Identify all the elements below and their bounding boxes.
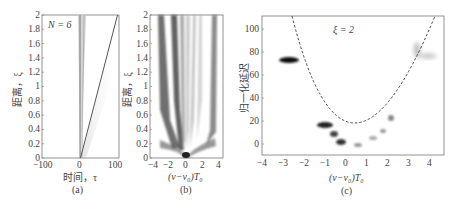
- ytick: 20: [250, 116, 260, 126]
- ytick: 60: [250, 70, 260, 80]
- xtick: 0: [183, 160, 188, 170]
- ytick: 1: [143, 81, 148, 91]
- ytick: 1.8: [136, 24, 148, 34]
- xtick: 4: [216, 160, 221, 170]
- ytick: 1.2: [136, 67, 148, 77]
- panel-c-caption: (c): [341, 185, 352, 196]
- xtick: −4: [148, 160, 158, 170]
- panel-c-xlabel: (ν−ν₀)T₀: [329, 173, 364, 183]
- ytick: 100: [245, 24, 259, 34]
- xtick: 2: [385, 158, 390, 168]
- xtick: 0: [343, 158, 348, 168]
- panel-c-annotation: ξ = 2: [333, 25, 354, 35]
- ytick: 1.4: [136, 53, 148, 63]
- xtick: −2: [163, 160, 173, 170]
- ytick: 1: [35, 81, 40, 91]
- ytick: 2: [35, 10, 40, 20]
- ytick: 2: [143, 10, 148, 20]
- panel-a: [42, 15, 119, 158]
- ytick: 0: [254, 139, 259, 149]
- panel-a-annotation: N = 6: [48, 20, 71, 30]
- xtick: −4: [257, 158, 267, 168]
- xtick: 4: [427, 158, 432, 168]
- xtick: 2: [200, 160, 205, 170]
- ytick: 0.8: [136, 96, 148, 106]
- xtick: 3: [406, 158, 411, 168]
- xtick: −2: [299, 158, 309, 168]
- ytick: 1.6: [136, 39, 148, 49]
- xtick: 1: [364, 158, 369, 168]
- panel-b-caption: (b): [180, 184, 192, 195]
- xtick: −1: [320, 158, 330, 168]
- panel-a-xlabel: 时间，τ: [63, 173, 97, 183]
- ytick: 80: [250, 47, 260, 57]
- ytick: 0.2: [28, 139, 40, 149]
- panel-b-ylabel: 距离，ξ: [119, 70, 134, 110]
- panel-c: [262, 16, 444, 155]
- xtick: −100: [33, 160, 53, 170]
- panel-c-ylabel: 归一化延迟: [236, 63, 251, 113]
- ytick: 0.6: [28, 110, 40, 120]
- ytick: 0.4: [28, 124, 40, 134]
- ytick: 1.8: [28, 24, 40, 34]
- ytick: 1.6: [28, 39, 40, 49]
- ytick: 0.2: [136, 139, 148, 149]
- xtick: −3: [278, 158, 288, 168]
- ytick: 40: [250, 93, 260, 103]
- ytick: 1.4: [28, 53, 40, 63]
- xtick: 100: [108, 160, 122, 170]
- panel-a-ylabel: 距离，ξ: [9, 70, 24, 110]
- xtick: 0: [77, 160, 82, 170]
- ytick: 0.4: [136, 124, 148, 134]
- panel-b-xlabel: (ν−ν₀)T₀: [168, 172, 203, 182]
- ytick: 0.8: [28, 96, 40, 106]
- ytick: 1.2: [28, 67, 40, 77]
- panel-a-caption: (a): [72, 184, 83, 195]
- panel-b: [150, 15, 223, 158]
- ytick: 0.6: [136, 110, 148, 120]
